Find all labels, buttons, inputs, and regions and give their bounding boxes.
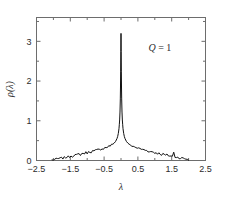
x-tick-label: −0.5 xyxy=(95,164,113,174)
y-tick-label: 2 xyxy=(26,76,31,86)
x-tick-label: 0.5 xyxy=(132,164,145,174)
eigenvalue-density-figure: −2.5−1.5−0.50.51.52.50123λρ(λ)Q = 1 xyxy=(0,0,227,204)
y-tick-label: 3 xyxy=(26,37,31,47)
annotation-equals-value: = 1 xyxy=(156,42,172,53)
figure-root: −2.5−1.5−0.50.51.52.50123λρ(λ)Q = 1 xyxy=(0,0,227,204)
y-tick-label: 1 xyxy=(26,116,31,126)
plot-svg: −2.5−1.5−0.50.51.52.50123λρ(λ)Q = 1 xyxy=(0,0,227,204)
x-tick-label: 2.5 xyxy=(199,164,212,174)
y-tick-label: 0 xyxy=(26,156,31,166)
x-axis-title: λ xyxy=(118,181,124,192)
x-tick-label: 1.5 xyxy=(165,164,178,174)
x-tick-label: −1.5 xyxy=(61,164,79,174)
y-axis-title: ρ(λ) xyxy=(4,80,16,97)
annotation-q-value: Q = 1 xyxy=(148,42,171,53)
